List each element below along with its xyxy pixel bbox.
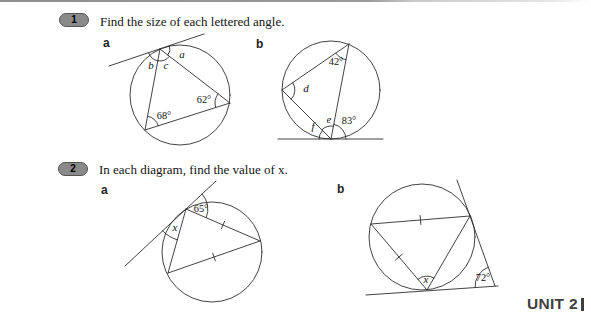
- tick-mark-2b-left-chord: [396, 254, 403, 260]
- unit-label: UNIT 2: [527, 295, 578, 313]
- angle-label-72: 72°: [476, 272, 490, 283]
- angle-label-x-2a: x: [172, 221, 178, 233]
- circle-2b: [369, 184, 475, 290]
- unit-footer-divider: [581, 298, 584, 311]
- angle-label-b: b: [148, 59, 154, 71]
- chord-2a-top-bottom: [168, 209, 186, 273]
- tick-mark-2b-top-chord: [420, 216, 421, 225]
- angle-label-c: c: [164, 59, 169, 71]
- angle-label-a: a: [179, 48, 185, 60]
- diagram-1a: a b c 62° 68°: [109, 34, 230, 145]
- diagram-2a: 65° x: [125, 181, 262, 302]
- angle-arc-d: [291, 83, 295, 100]
- angle-arc-e: [322, 126, 334, 130]
- tangent-line-2b-bottom: [366, 286, 498, 295]
- tangent-line-1a: [109, 34, 204, 66]
- angle-label-62: 62°: [197, 94, 211, 105]
- angle-label-65: 65°: [194, 203, 208, 214]
- unit-footer: UNIT 2: [527, 295, 584, 313]
- angle-label-d: d: [303, 82, 309, 94]
- angle-label-x-2b: x: [423, 273, 429, 285]
- diagram-1b: 42° d e f 83°: [278, 41, 383, 139]
- geometry-diagrams: a b c 62° 68° 42° d e f 83° 65° x: [0, 0, 591, 322]
- angle-label-42: 42°: [329, 56, 343, 67]
- angle-label-68: 68°: [157, 110, 171, 121]
- angle-arc-a: [168, 46, 170, 55]
- angle-label-f: f: [311, 120, 316, 132]
- angle-label-e: e: [327, 113, 332, 125]
- chord-1a-top-right: [160, 49, 230, 103]
- angle-arc-62: [215, 94, 218, 108]
- tangent-line-2b-right: [457, 180, 495, 286]
- diagram-2b: x 72°: [366, 180, 498, 295]
- angle-label-83: 83°: [342, 115, 356, 126]
- chord-1b-left-bottom: [282, 90, 331, 139]
- chord-2b-right: [427, 216, 470, 290]
